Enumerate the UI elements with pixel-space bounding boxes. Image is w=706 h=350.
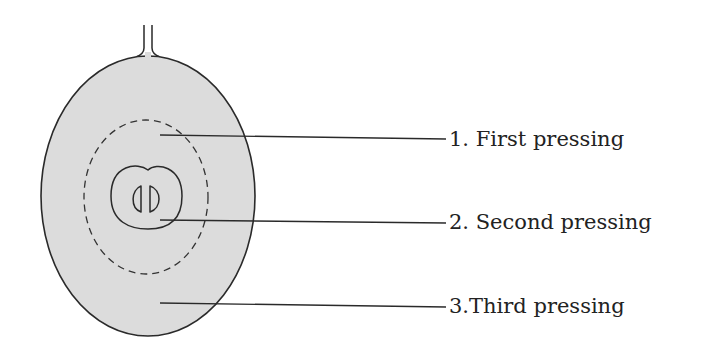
grape-skin <box>41 56 255 336</box>
label-first-pressing: 1. First pressing <box>449 129 624 150</box>
label-second-pressing: 2. Second pressing <box>449 212 652 233</box>
label-third-pressing: 3.Third pressing <box>449 296 625 317</box>
